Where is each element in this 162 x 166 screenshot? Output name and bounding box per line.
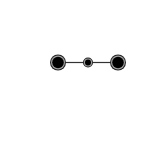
node-middle — [83, 58, 93, 68]
node-right — [110, 55, 126, 71]
node-left — [50, 55, 66, 71]
diagram-canvas — [0, 0, 162, 166]
